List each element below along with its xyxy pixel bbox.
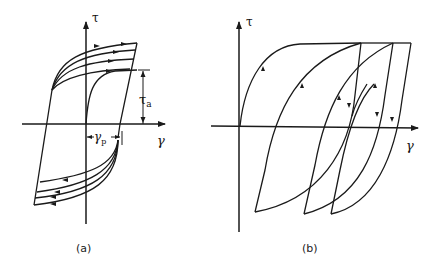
- gamma-axis-label-b: γ: [406, 138, 414, 153]
- caption-b: (b): [302, 242, 318, 255]
- panel-b: τ γ (b): [211, 15, 418, 255]
- lower-branch-1: [40, 140, 118, 182]
- tau-a-label: τa: [139, 92, 152, 109]
- gamma-axis-label-a: γ: [157, 133, 165, 148]
- panel-a: τa γp τ γ (a): [22, 11, 165, 255]
- tau-axis-label-a: τ: [92, 11, 99, 25]
- upper-branch-1: [52, 69, 130, 90]
- loop1-upper: [240, 43, 361, 126]
- upper-branch-4: [52, 43, 137, 90]
- gamma-p-label: γp: [94, 130, 106, 146]
- caption-a: (a): [76, 242, 91, 255]
- upper-branch-3: [52, 50, 135, 90]
- tau-axis-label-b: τ: [246, 15, 253, 29]
- upper-branch-2: [52, 59, 134, 90]
- lower-branch-2: [37, 140, 118, 192]
- lower-branch-3: [35, 140, 118, 198]
- gamma-axis-b: [211, 126, 418, 128]
- loop3-reload: [331, 84, 374, 214]
- loading-branch-left: [34, 90, 52, 205]
- figure-canvas: τa γp τ γ (a): [0, 0, 435, 274]
